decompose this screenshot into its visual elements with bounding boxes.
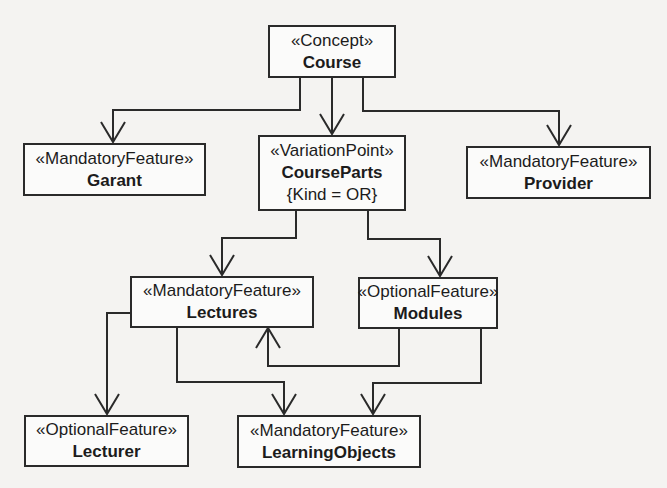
- node-learningobjects[interactable]: «MandatoryFeature» LearningObjects: [237, 415, 421, 468]
- feature-name: Lecturer: [72, 441, 140, 463]
- edge-courseparts-lectures: [210, 210, 296, 275]
- stereotype-label: «OptionalFeature»: [358, 281, 499, 303]
- feature-name: LearningObjects: [262, 442, 396, 464]
- constraint-label: {Kind = OR}: [287, 184, 377, 206]
- feature-name: Provider: [524, 173, 593, 195]
- node-courseparts[interactable]: «VariationPoint» CourseParts {Kind = OR}: [258, 135, 406, 211]
- node-lecturer[interactable]: «OptionalFeature» Lecturer: [24, 415, 189, 467]
- stereotype-label: «Concept»: [291, 30, 373, 52]
- feature-name: Modules: [394, 303, 463, 325]
- feature-diagram: «Concept» Course «MandatoryFeature» Gara…: [0, 0, 667, 488]
- feature-name: Garant: [87, 170, 142, 192]
- stereotype-label: «OptionalFeature»: [36, 419, 177, 441]
- stereotype-label: «MandatoryFeature»: [143, 280, 301, 302]
- stereotype-label: «MandatoryFeature»: [36, 148, 194, 170]
- edge-modules-learningobjects: [361, 328, 481, 414]
- edge-lectures-lecturer: [95, 313, 131, 414]
- feature-name: CourseParts: [281, 162, 382, 184]
- stereotype-label: «MandatoryFeature»: [250, 420, 408, 442]
- feature-name: Course: [303, 52, 362, 74]
- node-provider[interactable]: «MandatoryFeature» Provider: [466, 146, 651, 199]
- edge-modules-lectures: [256, 328, 399, 366]
- edge-courseparts-modules: [368, 210, 452, 276]
- node-lectures[interactable]: «MandatoryFeature» Lectures: [130, 276, 314, 328]
- feature-name: Lectures: [187, 302, 258, 324]
- edge-course-garant: [101, 77, 300, 142]
- node-garant[interactable]: «MandatoryFeature» Garant: [23, 143, 206, 196]
- stereotype-label: «VariationPoint»: [270, 140, 394, 162]
- edge-course-courseparts: [320, 77, 344, 134]
- node-modules[interactable]: «OptionalFeature» Modules: [358, 277, 498, 329]
- stereotype-label: «MandatoryFeature»: [480, 151, 638, 173]
- edge-lectures-learningobjects: [177, 327, 296, 414]
- node-course[interactable]: «Concept» Course: [268, 25, 396, 78]
